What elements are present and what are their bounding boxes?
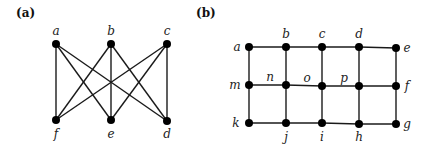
node-label-a: a [233,40,240,54]
edge-n-o [286,85,322,86]
node-b [282,43,290,51]
node-b [107,40,115,48]
node-label-o: o [303,71,310,85]
figure-canvas: (a) abcfed (b) abcdemnopfkjihg [0,0,422,148]
node-d [355,43,363,51]
node-label-f: f [53,127,61,141]
node-a [245,43,253,51]
node-j [282,119,290,127]
node-k [245,119,253,127]
node-label-b: b [107,24,115,38]
panel-a: (a) abcfed [16,6,171,141]
node-label-h: h [355,130,363,144]
panel-b-label: (b) [196,6,216,20]
node-o [318,82,326,90]
node-m [245,81,253,89]
node-e [392,44,400,52]
node-label-d: d [163,127,171,141]
node-label-c: c [164,24,171,38]
panel-a-edges [56,44,167,121]
node-label-c: c [319,27,326,41]
node-i [318,119,326,127]
node-label-k: k [232,116,239,130]
node-label-f: f [404,79,412,93]
node-c [163,40,171,48]
node-label-g: g [403,117,411,131]
node-label-a: a [52,24,59,38]
edge-d-e [359,47,396,48]
node-p [355,82,363,90]
node-label-m: m [229,78,240,92]
node-label-d: d [355,27,363,41]
node-c [318,43,326,51]
node-label-n: n [266,70,274,84]
node-label-e: e [107,127,114,141]
node-label-j: j [281,130,288,144]
node-f [52,116,60,124]
node-h [355,120,363,128]
node-n [282,81,290,89]
panel-b: (b) abcdemnopfkjihg [196,6,412,144]
node-f [392,82,400,90]
node-a [52,40,60,48]
node-label-e: e [403,41,410,55]
edge-i-h [322,123,359,124]
node-d [163,117,171,125]
node-label-p: p [340,71,348,85]
panel-a-label: (a) [16,6,35,20]
node-e [107,116,115,124]
node-label-b: b [282,27,290,41]
node-label-i: i [320,130,324,144]
node-g [392,120,400,128]
